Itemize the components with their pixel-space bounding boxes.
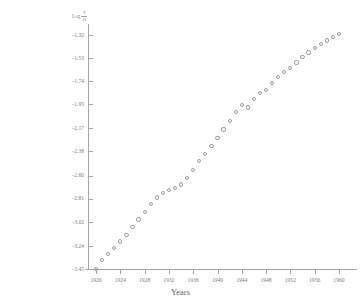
x-tick-mark — [339, 269, 340, 274]
x-tick-mark — [120, 269, 121, 274]
data-point — [306, 50, 310, 54]
data-point — [136, 217, 140, 221]
y-tick-label: -2.17 — [50, 125, 84, 131]
y-tick-label: -2.38 — [50, 148, 84, 154]
x-tick-mark — [242, 269, 243, 274]
x-axis-line — [85, 269, 357, 270]
y-tick-label: -3.02 — [50, 219, 84, 225]
data-point — [228, 119, 232, 123]
data-point — [234, 110, 238, 114]
x-tick-mark — [193, 269, 194, 274]
data-point — [173, 186, 177, 190]
y-tick-label: -2.60 — [50, 172, 84, 178]
log-ratio-unit-annotation: Log T H — [72, 11, 87, 22]
unit-note-prefix: Log — [72, 14, 80, 19]
data-point — [209, 144, 213, 148]
unit-note-numerator: T — [83, 11, 86, 16]
data-point — [179, 182, 183, 186]
x-axis-title: Years — [0, 287, 361, 297]
data-point — [167, 188, 171, 192]
x-tick-mark — [169, 269, 170, 274]
data-point — [94, 267, 98, 271]
y-tick-label: -3.24 — [50, 243, 84, 249]
y-tick-label: -1.53 — [50, 55, 84, 61]
data-point — [319, 42, 323, 46]
x-tick-mark — [145, 269, 146, 274]
unit-note-denominator: H — [83, 18, 86, 23]
unit-note-fraction: T H — [81, 11, 87, 22]
data-point — [325, 38, 329, 42]
y-tick-label: -1.32 — [50, 32, 84, 38]
x-tick-mark — [290, 269, 291, 274]
y-tick-label: -3.45 — [50, 266, 84, 272]
data-point — [215, 136, 219, 140]
y-tick-label: -1.95 — [50, 101, 84, 107]
data-point — [246, 105, 250, 109]
data-point — [294, 60, 298, 64]
data-point — [130, 225, 134, 229]
plot-area — [88, 28, 350, 266]
x-tick-mark — [218, 269, 219, 274]
data-point — [313, 46, 317, 50]
scatter-chart: Log T H Logarithm of the ratio of tracto… — [0, 0, 361, 308]
x-tick-label: 1960 — [321, 277, 357, 283]
data-point — [252, 97, 256, 101]
data-point — [149, 202, 153, 206]
data-point — [143, 210, 147, 214]
x-tick-mark — [315, 269, 316, 274]
data-point — [337, 32, 341, 36]
data-point — [124, 233, 128, 237]
data-point — [221, 127, 225, 131]
x-tick-mark — [266, 269, 267, 274]
y-tick-label: -2.81 — [50, 195, 84, 201]
data-point — [155, 195, 159, 199]
data-point — [106, 252, 110, 256]
y-tick-label: -1.74 — [50, 78, 84, 84]
y-tick-mark — [88, 269, 93, 270]
data-point — [300, 55, 304, 59]
